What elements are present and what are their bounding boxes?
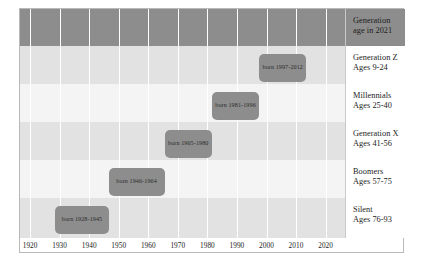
category-label-generation-z: Generation Z Ages 9-24 xyxy=(349,53,423,74)
category-label-silent: Silent Ages 76-93 xyxy=(349,205,423,226)
x-tick-1940: 1940 xyxy=(82,241,97,250)
gridline-1970 xyxy=(178,9,179,238)
category-label-generation-x-ages: Ages 41-56 xyxy=(353,139,423,149)
x-tick-1920: 1920 xyxy=(23,241,38,250)
gridline-1920 xyxy=(30,9,31,238)
bar-label-silent: born 1928-1945 xyxy=(62,216,103,224)
gridline-1980 xyxy=(207,9,208,238)
gridline-1950 xyxy=(119,9,120,238)
bar-label-generation-x: born 1965-1980 xyxy=(168,140,209,148)
category-label-generation-z-name: Generation Z xyxy=(353,53,423,63)
bar-label-millennials: born 1981-1996 xyxy=(215,102,256,110)
category-label-millennials: Millennials Ages 25-40 xyxy=(349,91,423,112)
header-label-line1: Generation xyxy=(353,16,423,26)
bar-boomers[interactable]: born 1946-1964 xyxy=(109,168,165,196)
category-label-boomers-name: Boomers xyxy=(353,167,423,177)
x-tick-1930: 1930 xyxy=(52,241,67,250)
bar-generation-z[interactable]: born 1997-2012 xyxy=(259,54,306,82)
gridline-1960 xyxy=(148,9,149,238)
chart-plot-area: born 1997-2012 born 1981-1996 born 1965-… xyxy=(20,9,405,254)
category-label-silent-name: Silent xyxy=(353,205,423,215)
category-label-generation-z-ages: Ages 9-24 xyxy=(353,63,423,73)
bar-generation-x[interactable]: born 1965-1980 xyxy=(165,130,212,158)
category-label-boomers-ages: Ages 57-75 xyxy=(353,177,423,187)
x-tick-1980: 1980 xyxy=(200,241,215,250)
category-label-millennials-ages: Ages 25-40 xyxy=(353,101,423,111)
bar-millennials[interactable]: born 1981-1996 xyxy=(212,92,259,120)
category-label-millennials-name: Millennials xyxy=(353,91,423,101)
category-label-generation-x-name: Generation X xyxy=(353,129,423,139)
gridline-1930 xyxy=(60,9,61,238)
generation-chart-figure: born 1997-2012 born 1981-1996 born 1965-… xyxy=(19,8,404,253)
gridline-2020 xyxy=(326,9,327,238)
gridline-1940 xyxy=(89,9,90,238)
x-tick-1960: 1960 xyxy=(141,241,156,250)
gridline-2000 xyxy=(267,9,268,238)
category-label-boomers: Boomers Ages 57-75 xyxy=(349,167,423,188)
x-axis: 1920 1930 1940 1950 1960 1970 1980 1990 … xyxy=(20,239,345,254)
bar-silent[interactable]: born 1928-1945 xyxy=(55,206,108,234)
x-tick-2000: 2000 xyxy=(259,241,274,250)
header-label: Generation age in 2021 xyxy=(349,16,423,37)
row-band-generation-x xyxy=(20,122,405,160)
row-band-boomers xyxy=(20,160,405,198)
x-tick-1990: 1990 xyxy=(229,241,244,250)
header-label-line2: age in 2021 xyxy=(353,26,423,36)
category-label-generation-x: Generation X Ages 41-56 xyxy=(349,129,423,150)
bar-label-generation-z: born 1997-2012 xyxy=(262,64,303,72)
x-tick-1970: 1970 xyxy=(170,241,185,250)
gridline-2010 xyxy=(296,9,297,238)
x-tick-1950: 1950 xyxy=(111,241,126,250)
bar-label-boomers: born 1946-1964 xyxy=(116,178,157,186)
row-band-generation-z xyxy=(20,46,405,84)
category-label-silent-ages: Ages 76-93 xyxy=(353,215,423,225)
x-tick-2020: 2020 xyxy=(318,241,333,250)
gridline-1990 xyxy=(237,9,238,238)
header-band xyxy=(20,9,405,46)
x-tick-2010: 2010 xyxy=(289,241,304,250)
